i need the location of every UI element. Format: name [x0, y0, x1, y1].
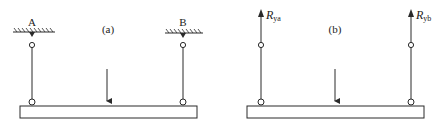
- diagram-canvas: A B: [0, 0, 444, 126]
- beam-b: [247, 106, 424, 118]
- support-b-label: B: [179, 16, 186, 28]
- pin-a-bottom: [29, 99, 35, 105]
- panel-b: Rya Ryb (b): [247, 8, 431, 118]
- reaction-yb: Ryb: [408, 8, 431, 48]
- beam-a: [20, 106, 197, 118]
- arrow-up-icon: [408, 9, 414, 17]
- ceiling-support-a: A: [13, 16, 55, 48]
- ceiling-support-b: B: [165, 16, 203, 48]
- reaction-yb-label: Ryb: [415, 8, 431, 23]
- panel-a: A B: [13, 16, 203, 118]
- pin-b-bottom: [180, 99, 186, 105]
- panel-a-caption: (a): [102, 23, 115, 36]
- arrow-up-icon: [258, 9, 264, 17]
- pin-left-bottom: [258, 99, 264, 105]
- support-a-label: A: [28, 16, 36, 28]
- reaction-ya: Rya: [258, 8, 281, 48]
- pin-right-bottom: [408, 99, 414, 105]
- panel-b-caption: (b): [329, 23, 342, 36]
- reaction-ya-label: Rya: [265, 8, 281, 23]
